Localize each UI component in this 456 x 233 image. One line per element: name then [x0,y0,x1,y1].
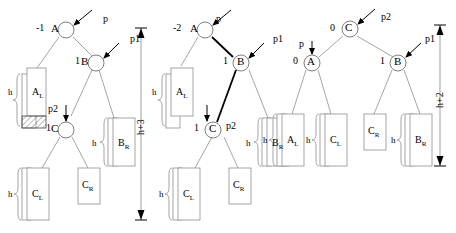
pointer-p1-label-before: p1 [130,34,140,44]
node-A-label-after: A [307,56,315,67]
pointer-p1-label-middle: p1 [273,34,283,44]
pointer-p2-label-before: p2 [48,104,58,114]
balance-C-after: 0 [330,23,335,33]
height-label-hplus2: h+2 [435,92,445,108]
subtree-AL-label-before: AL [32,87,44,100]
balance-A-after: 0 [293,56,298,66]
balance-C-before: 1 [46,123,51,133]
diagram-svg [0,0,456,233]
brace-h-AL-before: h [8,88,13,97]
subtree-CR-label-after: CR [368,126,379,139]
pointer-p2-label-middle: p2 [226,121,236,131]
brace-h-CL-after: h [306,136,311,145]
node-B-label-middle: B [237,56,244,67]
balance-C-middle: 1 [194,123,199,133]
subtree-CR-label-before: CR [82,180,93,193]
node-C-label-middle: C [209,123,216,134]
balance-B-after: 1 [380,56,385,66]
tree-edges-after [292,36,420,114]
brace-h-BR-middle: h [246,139,251,148]
pointer-p1-arrow-after [406,43,421,57]
pointer-p2-arrow-after [358,9,375,24]
node-C-before [58,122,74,138]
brace-h-AL-middle: h [152,88,157,97]
balance-A-middle: -2 [173,23,181,33]
balance-A-before: -1 [36,23,44,33]
subtree-BR-label-after: BR [415,135,426,148]
subtree-CL-label-before: CL [32,189,43,202]
balance-B-middle: 1 [223,56,228,66]
node-B-before [88,55,104,71]
node-A-before [58,22,74,38]
subtree-CL-label-after: CL [330,135,341,148]
pointer-p-arrow-before [74,10,92,25]
brace-h-CL-before: h [8,190,13,199]
balance-B-before: 1 [75,56,80,66]
pointer-p-label-middle: p [216,14,221,24]
pointer-p1-arrow-middle [249,43,264,58]
height-label-hplus3: h+3 [136,119,146,135]
brace-h-CL-middle: h [159,190,164,199]
node-C-label-after: C [345,22,352,33]
node-B-label-after: B [394,56,401,67]
brace-h-BR-before: h [92,139,97,148]
figure-canvas: A -1 p B 1 p1 C 1 p2 AL h BR h CL h CR h… [0,0,456,233]
pointer-p2-label-after: p2 [381,12,391,22]
pointer-p-label-before: p [103,14,108,24]
pointer-p1-arrow-before [104,43,119,58]
node-A-label-before: A [51,23,59,34]
subtree-CR-label-middle: CR [233,180,244,193]
panel-middle [158,10,289,220]
subtree-AL-label-middle: AL [176,87,188,100]
brace-h-BR-after: h [391,136,396,145]
subtree-BR-label-before: BR [118,138,129,151]
subtree-AL-label-after: AL [287,135,299,148]
node-A-middle [197,22,213,38]
brace-h-AL-after: h [263,136,268,145]
subtree-BR-label-middle: BR [272,138,283,151]
tree-edges-bold-middle [212,37,236,122]
pointer-p1-label-after: p1 [425,34,435,44]
node-B-label-before: B [81,56,88,67]
node-C-label-before: C [51,123,58,134]
subtree-CL-label-middle: CL [183,189,194,202]
node-A-label-middle: A [190,23,198,34]
pointer-p-label-after: p [299,39,304,49]
